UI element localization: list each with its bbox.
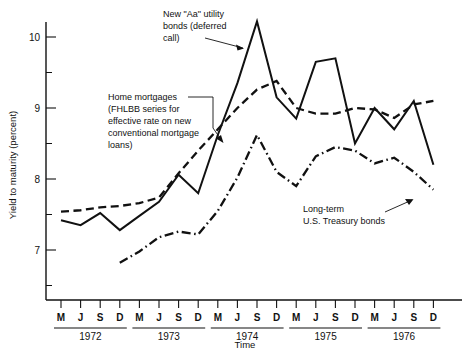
x-axis-ticks bbox=[61, 300, 433, 308]
annotation-utility-line1: New "Aa" utility bbox=[163, 9, 224, 19]
year-label-1973: 1973 bbox=[158, 331, 181, 342]
x-tick-label-6: S bbox=[175, 312, 182, 323]
x-tick-label-10: S bbox=[254, 312, 261, 323]
yield-to-maturity-chart: 10 9 8 7 Yield to maturity (percent) MJS… bbox=[0, 0, 470, 353]
annotation-mortgage-line4: conventional mortgage bbox=[108, 128, 199, 138]
annotation-treasury-bonds: Long-term U.S. Treasury bonds bbox=[303, 199, 414, 226]
series-line-treasury-bonds bbox=[120, 135, 434, 263]
annotation-home-mortgages: Home mortgages (FHLBB series for effecti… bbox=[108, 92, 224, 150]
x-tick-label-4: M bbox=[135, 312, 143, 323]
y-axis-title: Yield to maturity (percent) bbox=[7, 111, 18, 219]
year-label-1976: 1976 bbox=[393, 331, 416, 342]
annotation-mortgage-line3: effective rate on new bbox=[108, 116, 191, 126]
x-tick-label-2: S bbox=[97, 312, 104, 323]
x-tick-label-17: J bbox=[391, 312, 397, 323]
x-tick-label-5: J bbox=[156, 312, 162, 323]
x-axis-tick-labels: MJSDMJSDMJSDMJSDMJSD bbox=[57, 312, 437, 323]
x-tick-label-18: S bbox=[410, 312, 417, 323]
year-label-1972: 1972 bbox=[79, 331, 102, 342]
annotation-utility-line3: call) bbox=[163, 33, 180, 43]
annotation-treasury-line1: Long-term bbox=[303, 204, 344, 214]
annotation-treasury-arrowhead bbox=[405, 199, 414, 205]
x-axis: MJSDMJSDMJSDMJSDMJSD 1972197319741975197… bbox=[46, 300, 462, 350]
x-tick-label-0: M bbox=[57, 312, 65, 323]
x-axis-title: Time bbox=[235, 339, 256, 350]
x-tick-label-16: M bbox=[370, 312, 378, 323]
annotation-utility-bonds: New "Aa" utility bonds (deferred call) bbox=[163, 9, 244, 51]
annotation-treasury-line2: U.S. Treasury bonds bbox=[303, 216, 386, 226]
annotation-mortgage-line2: (FHLBB series for bbox=[108, 104, 180, 114]
annotation-utility-line2: bonds (deferred bbox=[163, 21, 227, 31]
y-axis: 10 9 8 7 Yield to maturity (percent) bbox=[7, 22, 56, 300]
x-tick-label-11: D bbox=[273, 312, 280, 323]
x-tick-label-1: J bbox=[78, 312, 84, 323]
y-axis-label-8: 8 bbox=[34, 174, 40, 185]
y-axis-label-7: 7 bbox=[34, 245, 40, 256]
x-tick-label-9: J bbox=[235, 312, 241, 323]
y-axis-label-10: 10 bbox=[29, 32, 41, 43]
x-tick-label-15: D bbox=[351, 312, 358, 323]
y-axis-label-9: 9 bbox=[34, 103, 40, 114]
year-label-1975: 1975 bbox=[314, 331, 337, 342]
x-tick-label-14: S bbox=[332, 312, 339, 323]
annotation-mortgage-line1: Home mortgages bbox=[108, 92, 178, 102]
chart-canvas: 10 9 8 7 Yield to maturity (percent) MJS… bbox=[0, 0, 470, 353]
x-tick-label-3: D bbox=[116, 312, 123, 323]
x-tick-label-19: D bbox=[430, 312, 437, 323]
annotation-mortgage-line5: loans) bbox=[108, 140, 133, 150]
x-tick-label-8: M bbox=[214, 312, 222, 323]
x-tick-label-7: D bbox=[195, 312, 202, 323]
x-tick-label-13: J bbox=[313, 312, 319, 323]
x-tick-label-12: M bbox=[292, 312, 300, 323]
